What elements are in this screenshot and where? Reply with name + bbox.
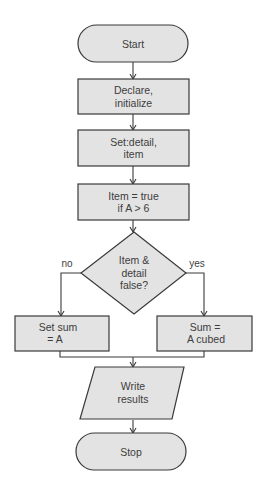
edge-declare-to-set-detail xyxy=(130,114,136,130)
node-set-detail-line-1: Set:detail, xyxy=(110,136,157,148)
node-declare-line-2: initialize xyxy=(115,97,153,109)
node-stop-label: Stop xyxy=(120,446,142,458)
node-set-sum-line-1: Set sum xyxy=(39,321,78,333)
node-declare-line-1: Declare, xyxy=(114,84,153,96)
node-set-sum: Set sum = A xyxy=(15,316,109,351)
node-item-true: Item = true if A > 6 xyxy=(78,184,189,220)
edge-decision-to-sum-cubed: yes xyxy=(186,258,207,316)
node-set-sum-line-2: = A xyxy=(47,333,62,345)
node-declare: Declare, initialize xyxy=(78,79,189,114)
node-sum-cubed-line-2: A cubed xyxy=(187,333,225,345)
edge-merge-to-write xyxy=(60,351,204,367)
node-write-line-2: results xyxy=(118,393,149,405)
node-set-detail: Set:detail, item xyxy=(78,130,189,166)
node-decision-line-1: Item & xyxy=(119,254,149,266)
node-item-true-line-2: if A > 6 xyxy=(118,202,150,214)
flowchart-canvas: no yes Start Declare, initialize xyxy=(0,0,265,494)
node-write-results: Write results xyxy=(80,367,184,419)
node-decision: Item & detail false? xyxy=(81,232,186,314)
node-decision-line-2: detail xyxy=(121,267,146,279)
edge-label-no: no xyxy=(61,258,73,269)
edge-item-true-to-decision xyxy=(130,220,136,232)
node-write-line-1: Write xyxy=(121,380,145,392)
edge-write-to-stop xyxy=(130,420,136,433)
node-start: Start xyxy=(78,25,188,62)
edge-decision-to-set-sum: no xyxy=(58,258,81,316)
node-sum-cubed-line-1: Sum = xyxy=(190,321,221,333)
node-item-true-line-1: Item = true xyxy=(108,190,159,202)
node-sum-cubed: Sum = A cubed xyxy=(157,316,252,351)
edge-label-yes: yes xyxy=(189,258,205,269)
node-stop: Stop xyxy=(76,433,186,470)
node-decision-line-3: false? xyxy=(120,279,148,291)
edge-set-detail-to-item-true xyxy=(130,166,136,184)
edge-start-to-declare xyxy=(130,62,136,79)
node-start-label: Start xyxy=(122,38,144,50)
node-set-detail-line-2: item xyxy=(124,148,144,160)
